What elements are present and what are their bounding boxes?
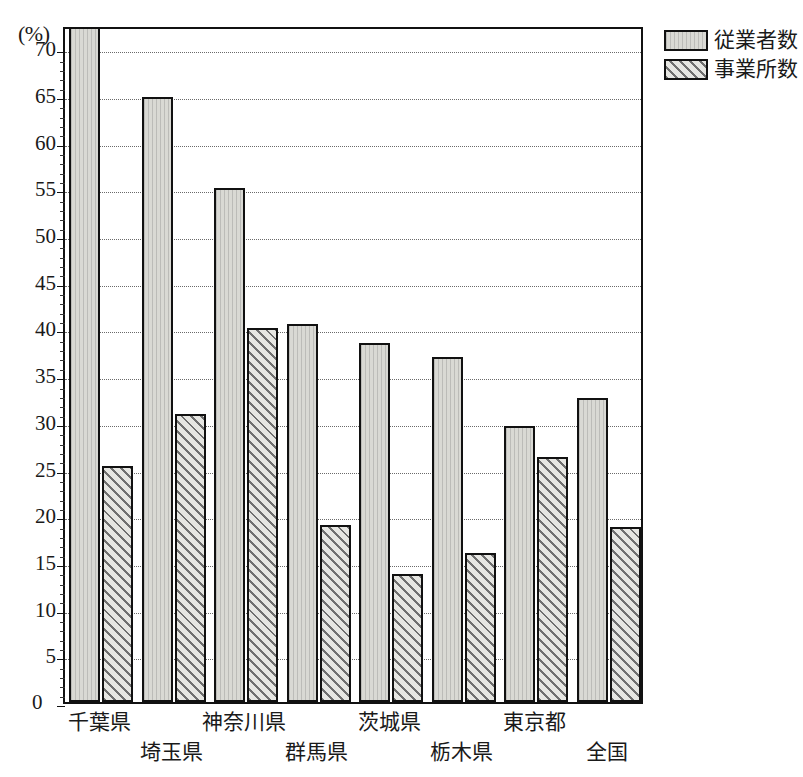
legend-label-employees: 従業者数 <box>714 30 798 51</box>
y-axis-tick <box>57 286 65 287</box>
bar <box>69 27 100 702</box>
bar <box>577 398 608 702</box>
bar <box>610 527 641 702</box>
y-axis-tick-label: 60 <box>10 133 56 154</box>
y-axis-tick <box>57 332 65 333</box>
y-axis-tick-label: 15 <box>10 553 56 574</box>
y-axis-tick <box>57 426 65 427</box>
y-axis-tick <box>57 239 65 240</box>
bars <box>65 29 641 702</box>
bar <box>359 343 390 703</box>
plot-area <box>63 27 643 704</box>
bar <box>432 357 463 703</box>
y-axis-tick-label: 55 <box>10 179 56 200</box>
x-axis-category-label: 千葉県 <box>68 710 131 734</box>
y-axis-tick-label: 50 <box>10 226 56 247</box>
x-axis-category-label: 東京都 <box>503 710 566 734</box>
legend-item-employees: 従業者数 <box>664 26 800 54</box>
y-axis-tick-label: 70 <box>10 39 56 60</box>
bar <box>287 324 318 702</box>
y-axis-tick <box>57 473 65 474</box>
y-axis-tick-label: 30 <box>10 413 56 434</box>
y-axis-tick <box>57 519 65 520</box>
bar <box>142 97 173 702</box>
y-axis-labels: 510152025303540455055606570 <box>4 27 56 704</box>
x-axis-category-label: 神奈川県 <box>202 710 286 734</box>
bar <box>504 426 535 702</box>
x-axis-category-label: 栃木県 <box>430 740 493 764</box>
x-axis-labels: 千葉県埼玉県神奈川県群馬県茨城県栃木県東京都全国 <box>0 706 803 777</box>
y-axis-tick <box>57 192 65 193</box>
legend: 従業者数 事業所数 <box>664 26 800 84</box>
bar <box>214 188 245 702</box>
y-axis-tick <box>57 52 65 53</box>
y-axis-tick <box>57 566 65 567</box>
y-axis-tick <box>57 613 65 614</box>
legend-swatch-employees <box>664 30 708 51</box>
bar-chart: (%) 510152025303540455055606570 0 千葉県埼玉県… <box>0 0 803 777</box>
bar <box>392 574 423 702</box>
y-axis-tick-label: 5 <box>10 646 56 667</box>
y-axis-tick-label: 65 <box>10 86 56 107</box>
y-axis-tick-label: 20 <box>10 506 56 527</box>
y-axis-tick <box>57 379 65 380</box>
y-axis-tick-label: 45 <box>10 273 56 294</box>
legend-label-establishments: 事業所数 <box>714 59 798 80</box>
y-axis-tick <box>57 99 65 100</box>
y-axis-tick-label: 10 <box>10 600 56 621</box>
x-axis-category-label: 茨城県 <box>358 710 421 734</box>
bar <box>175 414 206 702</box>
legend-item-establishments: 事業所数 <box>664 55 800 83</box>
y-axis-tick-label: 40 <box>10 319 56 340</box>
bar <box>465 553 496 702</box>
y-axis-tick-label: 35 <box>10 366 56 387</box>
bar <box>320 525 351 702</box>
y-axis-tick <box>57 146 65 147</box>
bar <box>102 466 133 702</box>
x-axis-category-label: 全国 <box>586 740 628 764</box>
y-axis-tick-label: 25 <box>10 460 56 481</box>
bar <box>537 457 568 702</box>
y-axis-tick <box>57 659 65 660</box>
legend-swatch-establishments <box>664 59 708 80</box>
bar <box>247 328 278 702</box>
x-axis-category-label: 埼玉県 <box>140 740 203 764</box>
x-axis-category-label: 群馬県 <box>285 740 348 764</box>
